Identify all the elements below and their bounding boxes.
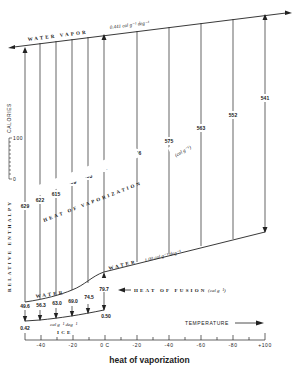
heat-of-fusion-label: HEAT OF FUSION [134,288,207,293]
water-vapor-line [8,11,292,50]
x-axis-ticks: -40 -20 0 C -20 -40 -60 -80 +100 [36,342,271,348]
svg-text:541: 541 [261,95,270,101]
svg-text:63.0: 63.0 [52,300,62,306]
water-heat-capacity-label: 1.00 cal g⁻¹ deg⁻¹ [144,249,182,263]
arrow-left-icon [118,288,125,293]
water-vapor-label: WATER VAPOR [28,30,89,42]
svg-text:629: 629 [21,203,30,209]
ice-cp-042: 0.42 [20,325,30,331]
scale-bottom-label: 0 [13,176,16,182]
ice-cp-050: 0.50 [101,313,111,319]
arrow-up-icon [102,34,107,40]
arrow-right-icon [256,321,264,326]
svg-text:552: 552 [229,112,238,118]
heat-of-vaporization-label-group: HEAT OF VAPORIZATION [29,148,143,223]
svg-text:-60: -60 [196,342,205,348]
svg-text:+100: +100 [258,342,272,348]
arrow-right-icon [285,11,292,16]
svg-text:615: 615 [52,191,61,197]
scale-top-label: 100 [13,135,23,141]
water-label: WATER [108,259,137,271]
svg-text:622: 622 [36,197,45,203]
svg-text:69.0: 69.0 [68,298,78,304]
svg-text:575: 575 [165,138,174,144]
svg-text:0 C: 0 C [100,342,110,348]
arrow-left-icon [8,45,15,49]
svg-text:79.7: 79.7 [99,286,109,292]
ice-line [25,310,104,321]
svg-text:56.3: 56.3 [36,302,46,308]
calories-scale [9,138,12,179]
svg-text:-40: -40 [164,342,173,348]
ice-heat-capacity-label: cal g⁻¹ deg⁻¹ [50,322,78,327]
svg-text:74.5: 74.5 [84,294,94,300]
figure-caption: heat of vaporization [0,355,299,365]
ice-label: ICE [57,330,73,335]
vapor-heat-capacity-label: 0.441 cal g⁻¹ deg⁻¹ [110,20,151,30]
arrow-up-icon [23,47,28,53]
svg-text:563: 563 [197,125,206,131]
svg-text:49.6: 49.6 [20,303,30,309]
relative-enthalpy-label: RELATIVE ENTHALPY [7,200,12,292]
enthalpy-diagram: WATER VAPOR 0.441 cal g⁻¹ deg⁻¹ 629 622 … [0,0,299,371]
fusion-units-label: (cal g⁻¹) [208,288,226,293]
svg-text:-80: -80 [228,342,237,348]
fusion-values: 49.6 56.3 63.0 69.0 74.5 79.7 [20,285,111,309]
calories-label: CALORIES [6,103,12,133]
svg-text:-40: -40 [36,342,45,348]
svg-text:-20: -20 [132,342,141,348]
arrow-up-icon [263,14,268,20]
svg-text:-20: -20 [68,342,77,348]
temperature-label: TEMPERATURE [185,320,229,326]
